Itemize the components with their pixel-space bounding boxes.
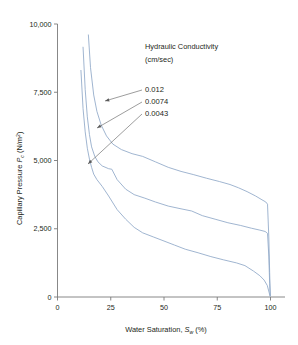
y-tick-label: 5,000 [34,156,52,165]
x-tick-label: 25 [107,303,115,312]
chart-canvas: 02,5005,0007,50010,000 0255075100 Hydrau… [0,0,298,345]
y-axis-title: Capillary Pressure Pc (N/m2) [15,132,26,225]
x-tick-label: 50 [160,303,168,312]
y-axis-title-text: Capillary Pressure Pc (N/m2) [15,132,26,225]
y-tick-label: 0 [48,293,52,302]
legend-value-0.012: 0.012 [145,85,164,94]
y-tick-label: 2,500 [34,224,52,233]
legend-units: (cm/sec) [145,55,173,64]
x-axis-title-text: Water Saturation, Sw (%) [125,325,207,335]
capillary-pressure-chart: 02,5005,0007,50010,000 0255075100 Hydrau… [0,0,298,345]
y-tick-label: 7,500 [34,88,52,97]
legend-title: Hydraulic Conductivity [145,42,218,51]
x-tick-label: 100 [265,303,277,312]
x-axis-title: Water Saturation, Sw (%) [125,325,207,335]
legend-value-0.0074: 0.0074 [145,97,168,106]
legend-value-0.0043: 0.0043 [145,109,168,118]
x-tick-label: 75 [213,303,221,312]
chart-background [0,0,298,345]
y-tick-label: 10,000 [30,20,52,29]
x-tick-label: 0 [56,303,60,312]
